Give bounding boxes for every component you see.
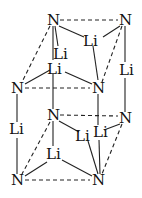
atom-n: N bbox=[119, 109, 132, 127]
atom-n: N bbox=[119, 11, 132, 29]
atom-n: N bbox=[11, 79, 24, 97]
atom-li: Li bbox=[75, 127, 90, 145]
atom-labels: N N Li Li Li Li N N N N Li Li Li Li N N bbox=[9, 11, 134, 189]
atom-n: N bbox=[92, 79, 105, 97]
dashed-edges bbox=[22, 20, 122, 180]
atom-li: Li bbox=[47, 60, 62, 78]
atom-n: N bbox=[47, 11, 60, 29]
li3n-crystal-structure: N N Li Li Li Li N N N N Li Li Li Li N N bbox=[0, 0, 142, 198]
atom-li: Li bbox=[83, 32, 98, 50]
atom-n: N bbox=[11, 171, 24, 189]
atom-n: N bbox=[92, 171, 105, 189]
atom-n: N bbox=[47, 106, 60, 124]
atom-li: Li bbox=[119, 61, 134, 79]
atom-li: Li bbox=[9, 120, 24, 138]
atom-li: Li bbox=[46, 145, 61, 163]
atom-li: Li bbox=[93, 123, 108, 141]
